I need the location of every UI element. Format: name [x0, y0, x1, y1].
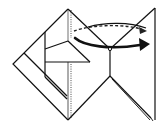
- origami-diagram: [0, 0, 168, 128]
- lower-v-edges: [68, 49, 153, 121]
- fold-arrow-solid: [75, 38, 150, 51]
- center-dotted-crease: [68, 10, 71, 120]
- inner-layer-flaps: [45, 9, 90, 99]
- diagram-svg: [0, 0, 168, 128]
- vertex-marker: [108, 47, 111, 50]
- fold-arrow-dashed: [74, 26, 147, 34]
